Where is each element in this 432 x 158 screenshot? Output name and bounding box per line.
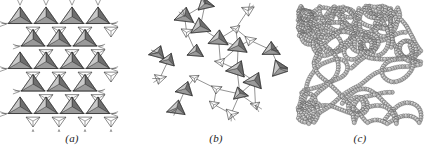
- sphere-highlight: [352, 119, 353, 120]
- sphere-highlight: [332, 86, 333, 87]
- sphere-highlight: [373, 16, 374, 17]
- sphere-highlight: [341, 109, 342, 110]
- sphere-highlight: [314, 57, 315, 58]
- sphere-highlight: [383, 101, 384, 102]
- sphere-highlight: [395, 80, 396, 81]
- sphere-highlight: [390, 12, 391, 13]
- bond-stub: [0, 67, 6, 69]
- sphere-highlight: [354, 49, 355, 50]
- sphere-highlight: [361, 99, 362, 100]
- sphere-highlight: [344, 110, 345, 111]
- sphere-highlight: [395, 24, 396, 25]
- sphere-highlight: [357, 50, 358, 51]
- sphere-highlight: [369, 25, 370, 26]
- sphere-highlight: [350, 67, 351, 68]
- sphere-highlight: [385, 116, 386, 117]
- sphere-highlight: [370, 16, 371, 17]
- sphere-highlight: [358, 24, 359, 25]
- sphere-highlight: [383, 27, 384, 28]
- sphere-highlight: [377, 23, 378, 24]
- sphere-highlight: [316, 72, 317, 73]
- sphere: [303, 120, 307, 124]
- sphere-highlight: [394, 26, 395, 27]
- sphere-highlight: [342, 18, 343, 19]
- sphere-highlight: [366, 101, 367, 102]
- sphere-highlight: [298, 112, 299, 113]
- tetra-open: [226, 109, 239, 120]
- sphere-highlight: [352, 114, 353, 115]
- sphere-highlight: [303, 106, 304, 107]
- sphere-highlight: [393, 115, 394, 116]
- sphere-highlight: [339, 40, 340, 41]
- sphere-highlight: [315, 55, 316, 56]
- sphere-highlight: [386, 30, 387, 31]
- sphere-highlight: [341, 24, 342, 25]
- sphere-highlight: [361, 34, 362, 35]
- sphere: [382, 91, 386, 95]
- sphere-highlight: [330, 15, 331, 16]
- sphere-highlight: [302, 40, 303, 41]
- sphere-highlight: [387, 43, 388, 44]
- sphere-highlight: [370, 44, 371, 45]
- sphere-highlight: [360, 21, 361, 22]
- sphere: [366, 121, 370, 125]
- sphere-highlight: [320, 76, 321, 77]
- sphere-highlight: [406, 101, 407, 102]
- sphere-highlight: [332, 10, 333, 11]
- sphere: [395, 79, 399, 83]
- bond-stub: [43, 0, 46, 5]
- sphere-highlight: [314, 50, 315, 51]
- sphere-highlight: [381, 67, 382, 68]
- sphere-highlight: [362, 101, 363, 102]
- sphere: [389, 80, 393, 84]
- sphere: [349, 66, 353, 70]
- sphere: [403, 30, 407, 34]
- lattice-group: [0, 0, 118, 132]
- sphere-highlight: [364, 99, 365, 100]
- sphere-highlight: [380, 35, 381, 36]
- sphere: [373, 5, 377, 9]
- sphere-highlight: [374, 119, 375, 120]
- bond-stub: [95, 0, 98, 5]
- sphere-highlight: [375, 54, 376, 55]
- sphere-highlight: [337, 36, 338, 37]
- sphere-highlight: [323, 20, 324, 21]
- sphere-highlight: [348, 10, 349, 11]
- sphere-highlight: [370, 42, 371, 43]
- sphere-highlight: [326, 46, 327, 47]
- sphere-highlight: [365, 95, 366, 96]
- sphere-highlight: [336, 21, 337, 22]
- sphere-highlight: [320, 44, 321, 45]
- sphere-highlight: [345, 56, 346, 57]
- sphere-highlight: [352, 116, 353, 117]
- sphere-highlight: [306, 83, 307, 84]
- sphere-highlight: [385, 103, 386, 104]
- sphere-highlight: [382, 75, 383, 76]
- sphere-highlight: [322, 77, 323, 78]
- sphere-highlight: [340, 26, 341, 27]
- sphere: [388, 67, 392, 71]
- sphere-highlight: [409, 44, 410, 45]
- sphere-highlight: [420, 114, 421, 115]
- sphere-highlight: [377, 40, 378, 41]
- sphere-highlight: [389, 25, 390, 26]
- figure-root: (a) (b) (c): [0, 0, 432, 158]
- sphere-highlight: [399, 44, 400, 45]
- sphere-highlight: [339, 108, 340, 109]
- sphere-highlight: [394, 120, 395, 121]
- sphere-highlight: [381, 99, 382, 100]
- sphere-highlight: [301, 120, 302, 121]
- sphere-highlight: [342, 30, 343, 31]
- sphere-highlight: [364, 120, 365, 121]
- sphere-highlight: [345, 71, 346, 72]
- bond-stub: [13, 44, 20, 46]
- sphere-highlight: [410, 34, 411, 35]
- sphere-highlight: [346, 64, 347, 65]
- sphere-highlight: [316, 106, 317, 107]
- sphere-highlight: [409, 32, 410, 33]
- sphere-highlight: [384, 118, 385, 119]
- sphere-highlight: [328, 7, 329, 8]
- sphere-highlight: [353, 41, 354, 42]
- sphere-highlight: [371, 90, 372, 91]
- sphere-highlight: [385, 47, 386, 48]
